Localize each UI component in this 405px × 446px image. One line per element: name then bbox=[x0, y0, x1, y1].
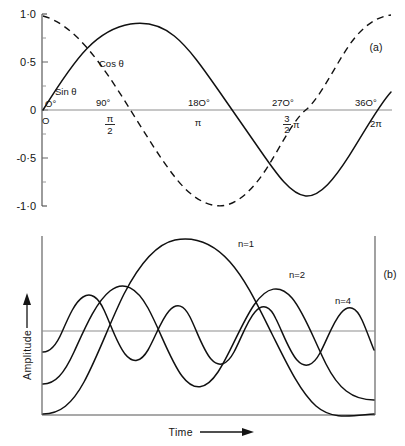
panel-a-cos-label: Cos θ bbox=[99, 58, 124, 69]
panel-a-xlabel-rad-3pi-over-2: 3 2 π bbox=[283, 113, 300, 135]
panel-b-tag: (b) bbox=[384, 268, 397, 280]
figure-root: 1·0 0·5 0 -0·5 -1·0 Sin θ Cos θ O° 90° 1… bbox=[0, 0, 405, 446]
panel-a-xlabel-deg-360: 36O° bbox=[355, 97, 377, 108]
panel-a-ylabel-1: 1·0 bbox=[20, 8, 36, 20]
panel-a-rad-pi2-den: 2 bbox=[107, 125, 112, 136]
panel-a-rad-3pi2-suffix: π bbox=[293, 119, 300, 130]
panel-b-x-axis-label: Time bbox=[168, 426, 193, 438]
panel-a-xlabel-rad-2pi: 2π bbox=[370, 118, 382, 129]
panel-a-ylabel-neg1: -1·0 bbox=[16, 200, 36, 212]
panel-a-ylabel-0p5: 0·5 bbox=[20, 56, 36, 68]
panel-a-xlabel-deg-180: 18O° bbox=[188, 97, 210, 108]
panel-a-xlabel-deg-90: 90° bbox=[96, 97, 111, 108]
panel-b: n=1 n=2 n=4 Amplitude Time (b) bbox=[21, 236, 396, 438]
panel-b-series-label-n1: n=1 bbox=[238, 238, 254, 249]
panel-a-xlabel-rad-pi-over-2: π 2 bbox=[105, 113, 115, 136]
panel-a-rad-3pi2-den: 2 bbox=[284, 124, 289, 135]
panel-a-rad-pi2-num: π bbox=[107, 113, 114, 124]
panel-a: 1·0 0·5 0 -0·5 -1·0 Sin θ Cos θ O° 90° 1… bbox=[16, 8, 392, 212]
panel-a-xlabel-deg-0: O° bbox=[45, 98, 56, 109]
panel-b-y-axis-label-group: Amplitude bbox=[21, 293, 33, 380]
panel-b-series-label-n4: n=4 bbox=[335, 295, 351, 306]
panel-b-curve-n1 bbox=[43, 239, 374, 416]
panel-b-curve-n4 bbox=[43, 295, 374, 365]
panel-b-x-axis-label-group: Time bbox=[168, 426, 254, 438]
panel-a-sin-label: Sin θ bbox=[55, 86, 77, 97]
figure-svg: 1·0 0·5 0 -0·5 -1·0 Sin θ Cos θ O° 90° 1… bbox=[0, 0, 405, 446]
panel-a-ylabel-neg0p5: -0·5 bbox=[16, 152, 36, 164]
panel-b-x-arrow-head bbox=[242, 428, 254, 436]
panel-a-xlabel-deg-270: 27O° bbox=[272, 97, 294, 108]
panel-b-series-label-n2: n=2 bbox=[289, 269, 305, 280]
panel-a-rad-3pi2-num: 3 bbox=[284, 113, 289, 124]
panel-a-ylabel-0: 0 bbox=[30, 104, 36, 116]
panel-b-y-arrow-head bbox=[23, 293, 31, 305]
panel-b-y-axis-label: Amplitude bbox=[21, 330, 33, 380]
panel-a-xlabel-rad-pi: π bbox=[195, 117, 202, 128]
panel-a-tag: (a) bbox=[370, 41, 383, 53]
panel-a-xlabel-rad-0: O bbox=[42, 115, 49, 126]
